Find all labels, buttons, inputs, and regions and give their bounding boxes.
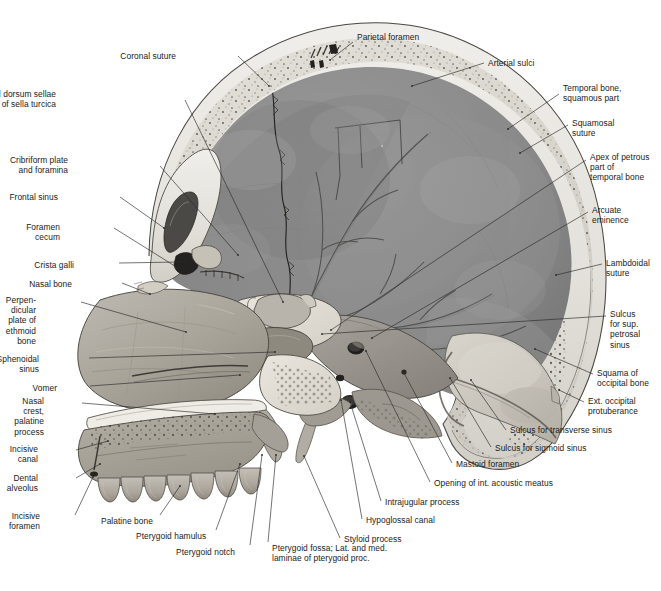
- leader-endpoint-lambdoidal-suture: [555, 274, 557, 276]
- leader-endpoint-sulcus-transverse: [470, 379, 472, 381]
- label-squamosal-suture: Squamosal suture: [572, 118, 614, 138]
- label-mastoid-foramen: Mastoid foramen: [456, 459, 519, 469]
- leader-endpoint-sulcus-sigmoid: [449, 377, 451, 379]
- leader-endpoint-sulcus-sup-petrosal: [321, 333, 323, 335]
- figure-canvas: Parietal foramenCoronal sutureArterial s…: [0, 0, 661, 591]
- leader-endpoint-pterygoid-fossa: [275, 454, 277, 456]
- label-arcuate-eminence: Arcuate eminence: [592, 205, 629, 225]
- leader-endpoint-squamosal-suture: [519, 152, 521, 154]
- skull-midsagittal-illustration: [0, 0, 661, 591]
- leader-endpoint-frontal-sinus: [163, 227, 165, 229]
- leader-endpoint-apex-petrous: [330, 329, 332, 331]
- label-vomer: Vomer: [33, 383, 57, 393]
- leader-endpoint-foramen-cecum: [177, 267, 179, 269]
- leader-endpoint-parietal-foramen: [329, 59, 331, 61]
- label-dental-alveolus: Dental alveolus: [7, 473, 38, 493]
- leader-endpoint-perpendicular-plate: [185, 331, 187, 333]
- leader-endpoint-arcuate-eminence: [371, 337, 373, 339]
- leader-endpoint-sphenoidal-sinus: [274, 351, 276, 353]
- label-tuberculum-dorsum-sellae: Tuberculum and dorsum sellae of sella tu…: [0, 89, 56, 109]
- label-apex-petrous: Apex of petrous part of temporal bone: [590, 152, 649, 183]
- leader-endpoint-mastoid-foramen: [403, 372, 405, 374]
- leader-endpoint-styloid-process: [303, 455, 305, 457]
- leader-endpoint-ext-occipital-prot: [558, 389, 560, 391]
- label-pterygoid-fossa: Pterygoid fossa; Lat. and med. laminae o…: [272, 543, 387, 563]
- label-nasal-bone: Nasal bone: [29, 279, 72, 289]
- leader-line-styloid-process: [304, 456, 340, 538]
- leader-endpoint-tuberculum-dorsum-sellae: [282, 301, 284, 303]
- label-crista-galli: Crista galli: [34, 260, 74, 270]
- label-pterygoid-hamulus: Pterygoid hamulus: [136, 531, 206, 541]
- leader-endpoint-hypoglossal-canal: [340, 399, 342, 401]
- leader-endpoint-incisive-canal: [107, 440, 109, 442]
- leader-endpoint-crista-galli: [179, 261, 181, 263]
- label-palatine-bone: Palatine bone: [101, 516, 153, 526]
- label-incisive-foramen: Incisive foramen: [9, 511, 40, 531]
- leader-endpoint-pterygoid-hamulus: [239, 463, 241, 465]
- label-perpendicular-plate: Perpen- dicular plate of ethmoid bone: [6, 295, 36, 346]
- leader-endpoint-nasal-bone: [149, 293, 151, 295]
- leader-endpoint-pterygoid-notch: [261, 454, 263, 456]
- label-foramen-cecum: Foramen cecum: [26, 222, 60, 242]
- leader-endpoint-temporal-bone-squamous: [507, 128, 509, 130]
- leader-endpoint-squama-occipital: [534, 348, 536, 350]
- label-pterygoid-notch: Pterygoid notch: [176, 547, 235, 557]
- leader-endpoint-incisive-foramen: [92, 476, 94, 478]
- label-intrajugular-process: Intrajugular process: [385, 497, 460, 507]
- leader-endpoint-palatine-bone: [179, 485, 181, 487]
- leader-endpoint-vomer: [239, 374, 241, 376]
- label-temporal-bone-squamous: Temporal bone, squamous part: [563, 83, 621, 103]
- leader-line-pterygoid-fossa: [268, 455, 276, 542]
- label-opening-int-acoustic: Opening of int. acoustic meatus: [434, 478, 553, 488]
- label-coronal-suture: Coronal suture: [120, 51, 176, 61]
- label-sphenoidal-sinus: Sphenoidal sinus: [0, 354, 39, 374]
- leader-endpoint-dental-alveolus: [99, 463, 101, 465]
- label-ext-occipital-prot: Ext. occipital protuberance: [588, 396, 638, 416]
- leader-endpoint-nasal-crest: [214, 413, 216, 415]
- leader-endpoint-cribriform-plate: [237, 254, 239, 256]
- leader-endpoint-coronal-suture: [268, 85, 270, 87]
- label-sulcus-sup-petrosal: Sulcus for sup. petrosal sinus: [610, 309, 640, 350]
- leader-endpoint-opening-int-acoustic: [365, 350, 367, 352]
- label-arterial-sulci: Arterial sulci: [488, 58, 534, 68]
- label-squama-occipital: Squama of occipital bone: [597, 368, 649, 388]
- label-nasal-crest: Nasal crest, palatine process: [14, 396, 44, 437]
- label-cribriform-plate: Cribriform plate and foramina: [10, 155, 68, 175]
- label-frontal-sinus: Frontal sinus: [9, 192, 58, 202]
- label-incisive-canal: Incisive canal: [10, 444, 38, 464]
- label-lambdoidal-suture: Lambdoidal suture: [606, 258, 650, 278]
- leader-endpoint-intrajugular-process: [349, 401, 351, 403]
- label-sulcus-transverse: Sulcus for transverse sinus: [510, 425, 612, 435]
- leader-line-hypoglossal-canal: [341, 400, 362, 519]
- label-parietal-foramen: Parietal foramen: [357, 32, 419, 42]
- leader-line-incisive-foramen: [75, 477, 93, 515]
- label-hypoglossal-canal: Hypoglossal canal: [366, 515, 435, 525]
- leader-endpoint-arterial-sulci: [411, 85, 413, 87]
- label-sulcus-sigmoid: Sulcus for sigmoid sinus: [495, 443, 587, 453]
